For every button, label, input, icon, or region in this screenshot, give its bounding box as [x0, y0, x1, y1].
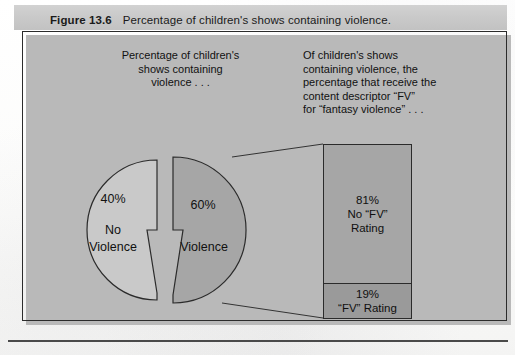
pie-label-name-no-violence: NoViolence [76, 222, 150, 256]
figure-caption: Figure 13.6Percentage of children's show… [50, 14, 391, 26]
bar-segment-fv-rating: 19% “FV” Rating [324, 284, 411, 318]
annotation-right-text: Of children's showscontaining violence, … [303, 49, 498, 117]
bar-segment-name-fv: “FV” Rating [338, 301, 397, 315]
bar-segment-percent-fv: 19% [356, 287, 379, 301]
figure-caption-band: Figure 13.6Percentage of children's show… [14, 5, 507, 30]
pie-label-percent-no-violence: 40% [86, 192, 140, 206]
figure-title-text: Percentage of children's shows containin… [123, 14, 391, 26]
pie-slice-violence [173, 157, 246, 303]
bar-segment-no-fv-rating: 81% No “FV”Rating [324, 145, 411, 284]
annotation-left-text: Percentage of children'sshows containing… [78, 49, 283, 90]
page-rule-divider [8, 340, 508, 342]
bar-segment-percent-no-fv: 81% [356, 193, 379, 207]
figure-page: Figure 13.6Percentage of children's show… [0, 0, 515, 355]
pie-label-name-violence: Violence [168, 240, 240, 254]
pie-label-percent-violence: 60% [176, 198, 230, 212]
bar-segment-name-no-fv: No “FV”Rating [347, 207, 387, 235]
stacked-bar-chart: 81% No “FV”Rating 19% “FV” Rating [323, 144, 412, 319]
figure-number-label: Figure 13.6 [50, 14, 112, 26]
